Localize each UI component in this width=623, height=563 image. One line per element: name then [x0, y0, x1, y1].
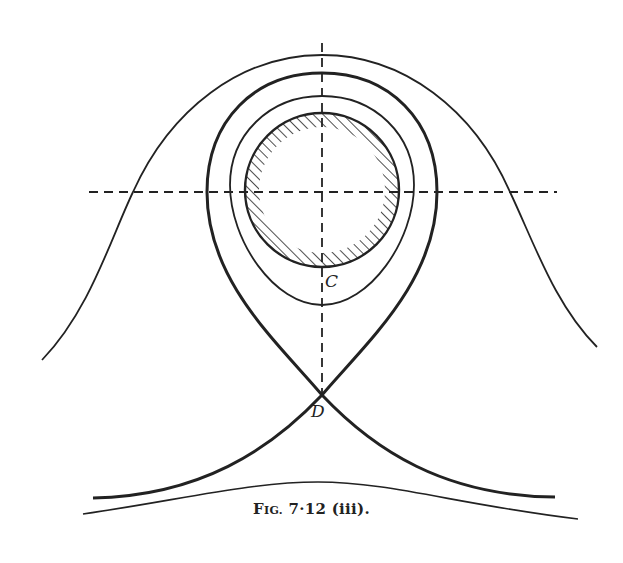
- point-label-d: D: [311, 401, 325, 421]
- caption-prefix: F: [253, 500, 264, 518]
- point-label-c: C: [325, 271, 338, 291]
- caption-smallcaps: IG.: [264, 504, 283, 517]
- separatrix-right-branch: [322, 395, 555, 497]
- phase-diagram: [0, 0, 623, 563]
- caption-rest: 7·12 (iii).: [283, 500, 370, 518]
- figure-caption: FIG. 7·12 (iii).: [0, 500, 623, 518]
